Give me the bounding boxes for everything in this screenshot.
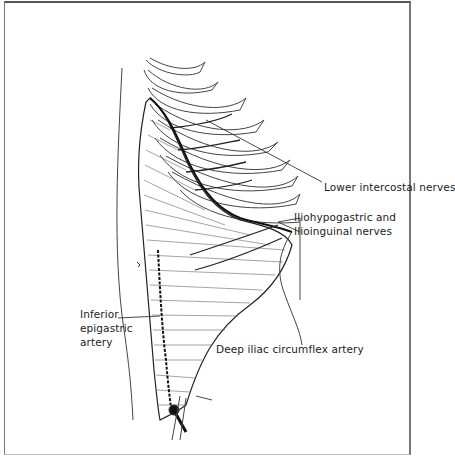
navel-mark [137, 262, 140, 267]
label-inferior-epigastric-line2: epigastric [80, 321, 133, 335]
leader-lines [118, 120, 322, 400]
label-iliohypogastric-line2: Ilioinguinal nerves [294, 224, 392, 238]
label-iliohypogastric-line1: Iliohypogastric and [294, 210, 396, 224]
label-inferior-epigastric-line1: Inferior [80, 307, 119, 321]
body-outline [117, 68, 133, 420]
label-lower-intercostal-nerves: Lower intercostal nerves [324, 180, 455, 194]
label-inferior-epigastric-line3: artery [80, 335, 112, 349]
label-deep-iliac-circumflex-artery: Deep iliac circumflex artery [216, 342, 364, 356]
ribs [144, 58, 300, 223]
